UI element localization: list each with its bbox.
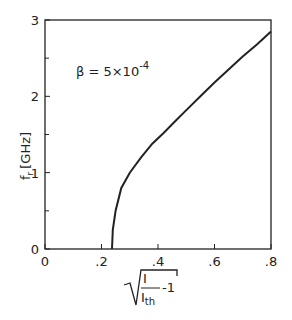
y-tick-label: 3	[31, 13, 39, 28]
x-tick-label: .6	[208, 254, 220, 269]
svg-text:I: I	[143, 271, 147, 286]
x-axis-label: I Ith -1	[124, 270, 177, 307]
y-tick-label: 0	[31, 242, 39, 257]
beta-annotation: β = 5×10-4	[76, 60, 149, 79]
svg-text:-1: -1	[162, 280, 175, 295]
x-tick-label: 0	[41, 254, 49, 269]
chart: 0.2.4.6.80123 β = 5×10-4 fr[GHz] I Ith -…	[0, 0, 292, 320]
x-tick-label: .4	[152, 254, 164, 269]
x-tick-label: .2	[95, 254, 107, 269]
plot-frame	[45, 20, 271, 249]
x-tick-label: .8	[265, 254, 277, 269]
y-tick-label: 2	[31, 89, 39, 104]
y-axis-label: fr[GHz]	[18, 132, 35, 180]
svg-text:fr[GHz]: fr[GHz]	[18, 132, 35, 180]
svg-text:Ith: Ith	[141, 290, 155, 307]
